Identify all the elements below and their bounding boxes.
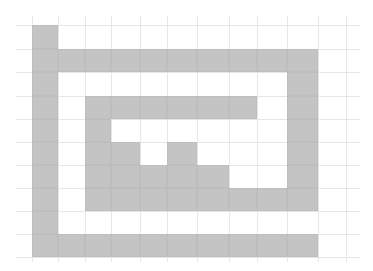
filled-cell <box>287 188 318 211</box>
filled-cell <box>111 96 140 119</box>
filled-cell <box>287 96 318 119</box>
filled-cell <box>287 119 318 142</box>
filled-cell <box>257 49 287 72</box>
filled-cell <box>197 49 229 72</box>
filled-cell <box>32 96 58 119</box>
filled-cell <box>167 96 197 119</box>
grid-line-vertical <box>346 16 347 262</box>
filled-cell <box>197 165 229 188</box>
filled-cell <box>197 188 229 211</box>
filled-cell <box>287 142 318 165</box>
filled-cell <box>85 234 111 257</box>
filled-cell <box>257 234 287 257</box>
filled-cell <box>287 234 318 257</box>
filled-cell <box>32 211 58 234</box>
filled-cell <box>32 119 58 142</box>
filled-cell <box>111 142 140 165</box>
filled-cell <box>32 142 58 165</box>
filled-cell <box>32 165 58 188</box>
filled-cell <box>140 188 167 211</box>
filled-cell <box>85 119 111 142</box>
filled-cell <box>111 188 140 211</box>
filled-cell <box>229 188 257 211</box>
filled-cell <box>85 188 111 211</box>
filled-cell <box>58 49 85 72</box>
grid-line-vertical <box>318 16 319 262</box>
filled-cell <box>167 188 197 211</box>
filled-cell <box>58 234 85 257</box>
filled-cell <box>229 96 257 119</box>
filled-cell <box>140 49 167 72</box>
filled-cell <box>167 49 197 72</box>
filled-cell <box>111 234 140 257</box>
filled-cell <box>85 96 111 119</box>
filled-cell <box>140 234 167 257</box>
grid-line-horizontal <box>16 257 360 258</box>
filled-cell <box>32 188 58 211</box>
filled-cell <box>197 96 229 119</box>
filled-cell <box>287 49 318 72</box>
filled-cell <box>111 49 140 72</box>
filled-cell <box>197 234 229 257</box>
filled-cell <box>287 72 318 96</box>
filled-cell <box>85 165 111 188</box>
filled-cell <box>140 165 167 188</box>
filled-cell <box>32 234 58 257</box>
filled-cell <box>229 234 257 257</box>
filled-cell <box>167 165 197 188</box>
filled-cell <box>167 142 197 165</box>
filled-cell <box>167 234 197 257</box>
filled-cell <box>85 142 111 165</box>
filled-cell <box>257 188 287 211</box>
grid-line-horizontal <box>16 25 360 26</box>
filled-cell <box>229 49 257 72</box>
filled-cell <box>140 96 167 119</box>
grid-line-horizontal <box>16 211 360 212</box>
filled-cell <box>85 49 111 72</box>
filled-cell <box>32 72 58 96</box>
filled-cell <box>32 25 58 49</box>
filled-cell <box>32 49 58 72</box>
filled-cell <box>111 165 140 188</box>
filled-cell <box>287 165 318 188</box>
